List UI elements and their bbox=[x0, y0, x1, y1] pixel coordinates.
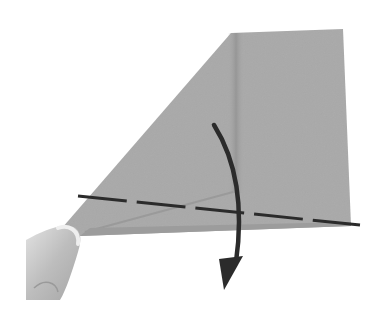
thumb bbox=[26, 226, 80, 300]
folding-illustration bbox=[0, 0, 383, 325]
vertical-crease bbox=[228, 33, 244, 193]
paper-sheet bbox=[62, 29, 351, 236]
folding-diagram bbox=[0, 0, 383, 325]
